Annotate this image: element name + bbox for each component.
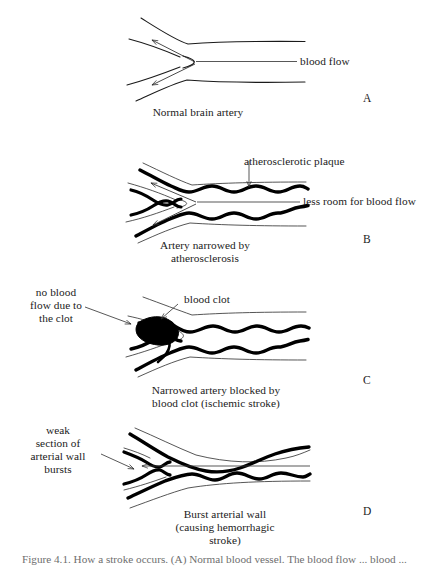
panel-letter-d: D (363, 505, 371, 517)
panel-d-caption-line1: Burst arterial wall (130, 508, 320, 521)
panel-d-weak-section-leader (101, 454, 134, 469)
label-no-flow-line1: no blood (14, 286, 98, 299)
label-less-room-for-blood-flow: less room for blood flow (303, 195, 416, 208)
panel-d-plaque-lower (128, 473, 310, 498)
label-blood-clot: blood clot (184, 293, 230, 306)
label-weak-line4: bursts (12, 463, 104, 476)
label-weak-line1: weak (12, 424, 104, 437)
panel-a-artery (127, 18, 305, 101)
label-blood-flow: blood flow (300, 55, 350, 68)
panel-d-caption-line2: (causing hemorrhagic (130, 521, 320, 534)
panel-d-caption-line3: stroke) (130, 534, 320, 547)
label-no-flow-line3: the clot (14, 312, 98, 325)
panel-b-caption-line1: Artery narrowed by (115, 239, 295, 252)
label-no-flow-line2: flow due to (14, 299, 98, 312)
label-weak-line2: section of (12, 437, 104, 450)
panel-c-caption-line1: Narrowed artery blocked by (116, 384, 316, 397)
panel-d-outer-walls (124, 428, 310, 508)
panel-b-plaque-branches (131, 190, 181, 215)
panel-c-caption-line2: blood clot (ischemic stroke) (116, 397, 316, 410)
figure-caption-cropped: Figure 4.1. How a stroke occurs. (A) Nor… (0, 554, 440, 566)
panel-letter-c: C (363, 374, 371, 386)
panel-letter-a: A (363, 92, 371, 104)
label-weak-line3: arterial wall (12, 450, 104, 463)
panel-b-caption-line2: atherosclerosis (115, 252, 295, 265)
panel-c-clot-leader (161, 304, 178, 319)
panel-c-blood-clot (136, 317, 178, 345)
panel-a-flow-arrows (152, 40, 195, 85)
figure-caption-text: Figure 4.1. How a stroke occurs. (A) Nor… (22, 554, 407, 565)
panel-a-caption: Normal brain artery (108, 106, 288, 119)
label-atherosclerotic-plaque: atherosclerotic plaque (244, 155, 345, 168)
panel-letter-b: B (363, 233, 371, 245)
